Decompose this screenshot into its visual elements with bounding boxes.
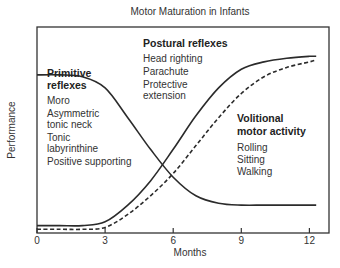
y-axis-label: Performance <box>6 101 17 159</box>
annotation-primitive-reflexes: Primitive reflexes Moro Asymmetric tonic… <box>47 67 132 167</box>
x-tick-label: 3 <box>102 235 108 246</box>
annotation-heading: Postural reflexes <box>143 37 228 49</box>
x-tick-label: 0 <box>34 235 40 246</box>
annotation-item: Tonic <box>47 132 70 143</box>
annotation-item: Moro <box>47 95 70 106</box>
chart-canvas: Motor Maturation in Infants 036912 Month… <box>0 0 340 268</box>
x-tick-label: 9 <box>239 235 245 246</box>
annotation-item: labyrinthine <box>47 143 99 154</box>
annotation-item: Rolling <box>237 142 268 153</box>
x-axis-label: Months <box>174 247 207 258</box>
annotation-heading: Volitional <box>237 112 284 124</box>
annotation-item: Protective <box>143 79 188 90</box>
chart-title: Motor Maturation in Infants <box>131 6 250 17</box>
annotation-item: Sitting <box>237 154 265 165</box>
x-axis-ticks: 036912 <box>34 228 315 246</box>
annotation-item: Asymmetric <box>47 108 99 119</box>
x-tick-label: 12 <box>304 235 316 246</box>
annotation-item: Walking <box>237 166 272 177</box>
annotation-item: Head righting <box>143 53 202 64</box>
annotation-heading: reflexes <box>47 79 87 91</box>
annotation-item: Positive supporting <box>47 156 132 167</box>
annotation-volitional-motor-activity: Volitional motor activity Rolling Sittin… <box>237 112 306 177</box>
annotation-item: Parachute <box>143 66 189 77</box>
annotation-item: tonic neck <box>47 119 93 130</box>
annotation-heading: Primitive <box>47 67 92 79</box>
annotation-heading: motor activity <box>237 125 306 137</box>
annotation-item: extension <box>143 90 186 101</box>
x-tick-label: 6 <box>170 235 176 246</box>
